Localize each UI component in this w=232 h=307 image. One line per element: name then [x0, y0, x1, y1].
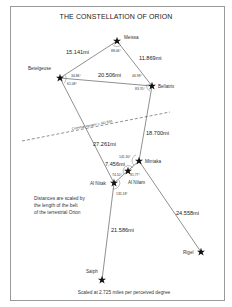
orion-diagram: THE CONSTELLATION OF ORION Celestial equ… — [0, 0, 232, 307]
label-alnitak: Al Nitak — [90, 181, 107, 186]
dist-mintaka-rigel: 24.558mi — [176, 210, 199, 216]
label-betelgeuse: Betelgeuse — [28, 66, 51, 71]
angle-alnilam-right: 31.77° — [130, 173, 140, 177]
angle-mintaka: 141.30° — [119, 155, 131, 159]
line-meissa-bellatrix — [117, 41, 152, 86]
note-line-3: of the terrestrial Orion — [34, 210, 81, 215]
angle-betelgeuse-bottom: 61.08° — [67, 82, 77, 86]
scale-caption: Scaled at 2.725 miles per perceived degr… — [78, 290, 171, 295]
dist-bellatrix-mintaka: 18.700mi — [146, 130, 169, 136]
angle-bellatrix-top: 46.98° — [132, 74, 142, 78]
celestial-equator-label: Celestial equator c. AD 300 — [71, 119, 112, 131]
angle-bellatrix-bottom: 83.70° — [135, 87, 145, 91]
line-betelgeuse-alnitak — [60, 78, 114, 183]
dist-belt: 7.456mi — [105, 161, 125, 167]
label-meissa: Meissa — [124, 35, 139, 40]
dist-meissa-bellatrix: 11.869mi — [139, 55, 162, 61]
angle-alnilam-left: 74.10° — [112, 173, 122, 177]
arc-betelgeuse — [64, 75, 66, 83]
label-alnilam: Al Nilam — [128, 180, 145, 185]
line-mintaka-rigel — [139, 161, 201, 252]
note-line-1: Distances are scaled by — [34, 196, 86, 201]
line-bellatrix-mintaka — [139, 86, 152, 161]
star-meissa-icon — [113, 37, 121, 45]
diagram-title: THE CONSTELLATION OF ORION — [60, 13, 173, 20]
star-rigel-icon — [197, 248, 205, 256]
star-saiph-icon — [98, 276, 106, 284]
dist-meissa-betelgeuse: 15.141mi — [66, 49, 89, 55]
star-betelgeuse-icon — [56, 74, 64, 82]
celestial-equator-line — [22, 112, 170, 141]
constellation-lines — [60, 41, 201, 280]
label-bellatrix: Bellatrix — [158, 84, 175, 89]
dist-alnitak-saiph: 21.586mi — [111, 227, 134, 233]
angle-arcs — [64, 44, 150, 189]
label-rigel: Rigel — [183, 250, 193, 255]
note-line-2: the length of the belt — [34, 203, 78, 208]
dist-betelgeuse-bellatrix: 20.506mi — [98, 72, 121, 78]
angle-betelgeuse-top: 34.86° — [71, 74, 81, 78]
label-mintaka: Mintaka — [145, 159, 162, 164]
label-saiph: Saiph — [86, 269, 98, 274]
dist-betelgeuse-alnitak: 27.261mi — [93, 141, 116, 147]
angle-meissa: 88.06° — [111, 49, 121, 53]
angle-alnitak: 135.18° — [116, 192, 128, 196]
